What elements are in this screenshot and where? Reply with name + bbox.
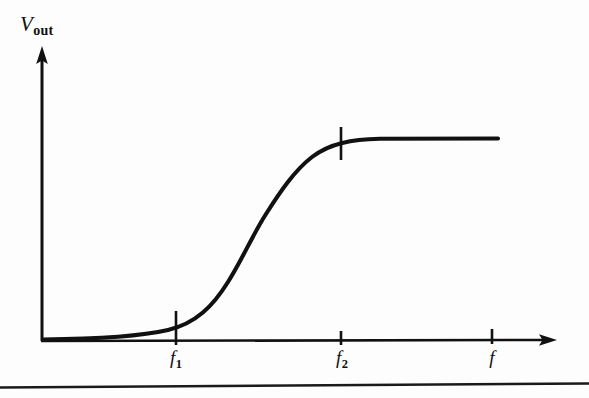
x-axis-label: f — [489, 348, 494, 367]
x-axis-label-variable: f — [489, 347, 494, 368]
tick-label-f1: f1 — [170, 348, 182, 370]
frequency-response-figure: Vout f1 f2 f — [0, 0, 589, 398]
tick-label-f2-subscript: 2 — [342, 357, 348, 371]
y-axis-label: Vout — [20, 14, 53, 38]
figure-canvas — [0, 0, 589, 398]
sigmoid-response-path — [43, 139, 498, 340]
y-axis-label-subscript: out — [33, 23, 53, 38]
tick-label-f2: f2 — [336, 348, 348, 370]
y-axis-label-variable: V — [20, 12, 33, 36]
response-curve — [43, 139, 498, 340]
y-axis — [36, 46, 48, 341]
tick-label-f1-subscript: 1 — [176, 357, 182, 371]
x-axis-line — [41, 340, 545, 341]
tick-label-f1-variable: f — [170, 347, 175, 368]
bottom-rule — [0, 384, 589, 388]
tick-label-f2-variable: f — [336, 347, 341, 368]
